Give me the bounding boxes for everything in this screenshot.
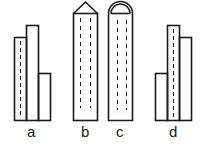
figure-d bbox=[156, 26, 192, 121]
figure-b-pointed-top bbox=[74, 2, 98, 14]
figure-a-right-bar bbox=[39, 74, 51, 121]
figure-d-label: d bbox=[169, 124, 177, 139]
figure-c-label: c bbox=[116, 124, 124, 139]
figure-b-label: b bbox=[81, 124, 89, 139]
figure-d-right-bar bbox=[180, 38, 192, 121]
figure-a bbox=[15, 26, 51, 121]
figure-a-middle-bar bbox=[27, 26, 39, 121]
figure-b-body bbox=[74, 14, 98, 121]
figure-c-body bbox=[109, 2, 133, 121]
figure-b bbox=[74, 2, 98, 121]
figure-c bbox=[109, 2, 133, 121]
figure-a-label: a bbox=[27, 124, 35, 139]
figure-d-left-bar bbox=[156, 74, 168, 121]
figure-c-inner-arch bbox=[111, 4, 130, 14]
